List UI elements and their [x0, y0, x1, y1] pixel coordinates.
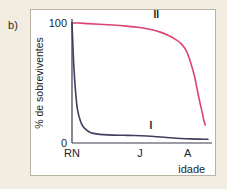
x-tick-label-rn: RN [64, 147, 80, 159]
y-axis-title: % de sobreviventes [33, 37, 45, 129]
plot-panel: 100 0 RN J A idade % de sobreviventes II… [30, 9, 216, 176]
curve-type-iii [72, 23, 205, 125]
axes-group [72, 19, 212, 143]
curve-type-i [72, 23, 208, 139]
x-tick-labels: RN J A [64, 147, 192, 159]
x-axis-title: idade [178, 163, 205, 175]
panel-letter-label: b) [8, 19, 18, 31]
curve-annotation-ii: II [154, 10, 160, 20]
y-tick-labels: 100 0 [49, 17, 67, 149]
survivorship-chart: 100 0 RN J A idade % de sobreviventes II… [31, 10, 215, 175]
x-tick-label-j: J [137, 147, 143, 159]
y-tick-label-100: 100 [49, 17, 67, 29]
curve-annotation-i: I [149, 120, 152, 131]
x-tick-label-a: A [184, 147, 192, 159]
figure-container: b) 100 0 RN J A idade % de sobreviventes [0, 0, 227, 189]
curves-group [72, 23, 208, 139]
